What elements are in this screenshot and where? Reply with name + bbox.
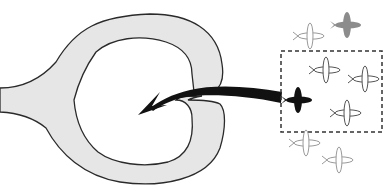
plane-icon [322, 147, 353, 173]
selected-plane-icon [281, 87, 312, 113]
plane-icon [293, 23, 324, 49]
plane-icon [309, 57, 340, 83]
plane-icon [330, 12, 361, 38]
plane-icon [348, 66, 379, 92]
plane-icon [289, 130, 320, 156]
heart-vessel-shape [0, 14, 225, 184]
plane-icon [330, 100, 361, 126]
diagram-figure [0, 0, 385, 193]
diagram-canvas: Selected object moved into the vessel [0, 0, 385, 193]
